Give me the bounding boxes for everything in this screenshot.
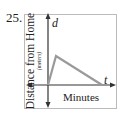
y-axis-title: Distance from Home: [24, 13, 36, 109]
y-axis-label: Distance from Home (meters): [24, 13, 42, 109]
x-axis-label: Minutes: [63, 91, 99, 103]
x-variable: t: [104, 74, 107, 86]
x-axis-arrow-right-icon: [110, 83, 116, 88]
y-axis-unit: (meters): [36, 13, 42, 109]
y-axis-arrow-down-icon: [46, 102, 51, 108]
y-axis-arrow-up-icon: [46, 13, 51, 19]
y-variable: d: [52, 17, 58, 29]
distance-time-graph: [0, 0, 122, 116]
distance-line: [48, 56, 102, 85]
